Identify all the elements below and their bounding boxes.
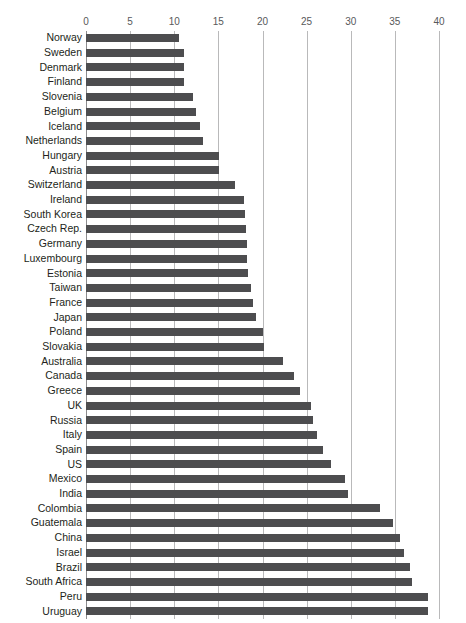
bar bbox=[86, 78, 184, 86]
bar-row bbox=[86, 149, 439, 164]
bar-row bbox=[86, 472, 439, 487]
bar bbox=[86, 313, 256, 321]
bar bbox=[86, 122, 200, 130]
bar-chart: 0510152025303540 NorwaySwedenDenmarkFinl… bbox=[0, 0, 466, 623]
bar bbox=[86, 387, 300, 395]
category-label: US bbox=[0, 459, 82, 470]
category-label: Luxembourg bbox=[0, 253, 82, 264]
bar-row bbox=[86, 178, 439, 193]
bar bbox=[86, 534, 400, 542]
category-label: China bbox=[0, 532, 82, 543]
bar bbox=[86, 549, 404, 557]
bar-row bbox=[86, 134, 439, 149]
category-label: Japan bbox=[0, 312, 82, 323]
bar-row bbox=[86, 193, 439, 208]
bar bbox=[86, 255, 247, 263]
bar bbox=[86, 357, 283, 365]
x-tick-label-20: 20 bbox=[257, 16, 268, 27]
bar bbox=[86, 137, 203, 145]
bar bbox=[86, 34, 179, 42]
category-label: Uruguay bbox=[0, 606, 82, 617]
category-label: France bbox=[0, 297, 82, 308]
gridline-40 bbox=[439, 31, 440, 619]
bar-row bbox=[86, 443, 439, 458]
bar bbox=[86, 504, 380, 512]
bar-row bbox=[86, 428, 439, 443]
bar-row bbox=[86, 207, 439, 222]
bar bbox=[86, 49, 184, 57]
category-label: Sweden bbox=[0, 47, 82, 58]
category-label: Czech Rep. bbox=[0, 223, 82, 234]
bar-row bbox=[86, 163, 439, 178]
bar bbox=[86, 416, 313, 424]
x-tick-label-10: 10 bbox=[169, 16, 180, 27]
x-tick-label-25: 25 bbox=[301, 16, 312, 27]
bar bbox=[86, 93, 193, 101]
category-label: Denmark bbox=[0, 62, 82, 73]
category-label: Slovakia bbox=[0, 341, 82, 352]
bar bbox=[86, 269, 248, 277]
category-label: Hungary bbox=[0, 150, 82, 161]
bar bbox=[86, 446, 323, 454]
bar-row bbox=[86, 590, 439, 605]
category-label: Germany bbox=[0, 238, 82, 249]
category-label: South Africa bbox=[0, 576, 82, 587]
x-axis-tick-labels: 0510152025303540 bbox=[0, 16, 466, 30]
bar bbox=[86, 593, 428, 601]
bar-row bbox=[86, 575, 439, 590]
bar-row bbox=[86, 237, 439, 252]
category-label: Estonia bbox=[0, 268, 82, 279]
bar bbox=[86, 108, 196, 116]
bar-row bbox=[86, 340, 439, 355]
category-label: Netherlands bbox=[0, 135, 82, 146]
category-label: Belgium bbox=[0, 106, 82, 117]
bar-row bbox=[86, 31, 439, 46]
bar bbox=[86, 196, 244, 204]
x-tick-label-35: 35 bbox=[389, 16, 400, 27]
bar bbox=[86, 519, 393, 527]
category-label: UK bbox=[0, 400, 82, 411]
bar-row bbox=[86, 60, 439, 75]
category-label: Greece bbox=[0, 385, 82, 396]
category-label: Colombia bbox=[0, 503, 82, 514]
bar bbox=[86, 328, 263, 336]
bar-row bbox=[86, 560, 439, 575]
bar-row bbox=[86, 384, 439, 399]
bar-row bbox=[86, 252, 439, 267]
bar bbox=[86, 210, 245, 218]
x-tick-label-5: 5 bbox=[127, 16, 133, 27]
category-label: Canada bbox=[0, 370, 82, 381]
category-label: India bbox=[0, 488, 82, 499]
bar-row bbox=[86, 296, 439, 311]
bar-row bbox=[86, 119, 439, 134]
category-axis-labels: NorwaySwedenDenmarkFinlandSloveniaBelgiu… bbox=[0, 31, 82, 619]
bar-row bbox=[86, 516, 439, 531]
bar bbox=[86, 240, 247, 248]
bar-row bbox=[86, 310, 439, 325]
bar-row bbox=[86, 369, 439, 384]
bar-row bbox=[86, 413, 439, 428]
category-label: Slovenia bbox=[0, 91, 82, 102]
plot-area bbox=[86, 31, 439, 619]
bar-row bbox=[86, 222, 439, 237]
x-tick-label-40: 40 bbox=[433, 16, 444, 27]
bar bbox=[86, 225, 246, 233]
bar-row bbox=[86, 105, 439, 120]
category-label: Israel bbox=[0, 547, 82, 558]
category-label: Ireland bbox=[0, 194, 82, 205]
bar bbox=[86, 284, 251, 292]
category-label: Austria bbox=[0, 165, 82, 176]
bar bbox=[86, 460, 331, 468]
bar-row bbox=[86, 546, 439, 561]
bar-rows bbox=[86, 31, 439, 619]
bar bbox=[86, 152, 219, 160]
bar bbox=[86, 63, 184, 71]
bar-row bbox=[86, 354, 439, 369]
category-label: Peru bbox=[0, 591, 82, 602]
bar bbox=[86, 402, 311, 410]
bar-row bbox=[86, 501, 439, 516]
category-label: Mexico bbox=[0, 473, 82, 484]
category-label: Finland bbox=[0, 76, 82, 87]
category-label: South Korea bbox=[0, 209, 82, 220]
bar bbox=[86, 166, 219, 174]
